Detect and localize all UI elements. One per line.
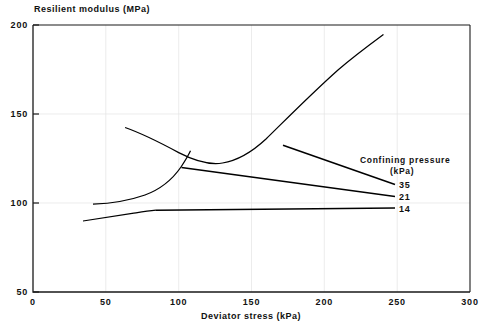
curve-series-14: [83, 210, 156, 221]
x-axis-title: Deviator stress (kPa): [201, 311, 301, 322]
y-tick-label-150: 150: [11, 109, 28, 120]
x-tick-label-300: 300: [461, 297, 478, 308]
legend-units: (kPa): [390, 166, 414, 177]
y-tick-label-50: 50: [16, 287, 28, 298]
x-tick-label-150: 150: [243, 297, 260, 308]
x-tick-label-100: 100: [170, 297, 187, 308]
x-tick-label-250: 250: [388, 297, 405, 308]
x-tick-label-0: 0: [30, 297, 36, 308]
series-curves: [83, 35, 384, 222]
chart-root: Resilient modulus (MPa) Deviator stress …: [0, 0, 485, 328]
leader-line-21: [182, 168, 396, 197]
curve-series-21: [93, 151, 191, 204]
legend-value-21: 21: [399, 192, 411, 203]
y-tick-label-100: 100: [11, 198, 28, 209]
legend-value-14: 14: [399, 204, 411, 215]
x-tick-label-50: 50: [100, 297, 112, 308]
legend-title: Confining pressure: [360, 155, 451, 166]
axis-ticks: [33, 25, 39, 292]
legend-value-35: 35: [399, 180, 411, 191]
leader-line-14: [156, 208, 395, 210]
x-tick-label-200: 200: [316, 297, 333, 308]
curve-series-35: [125, 35, 383, 164]
chart-title: Resilient modulus (MPa): [34, 4, 150, 15]
y-tick-label-200: 200: [11, 20, 28, 31]
